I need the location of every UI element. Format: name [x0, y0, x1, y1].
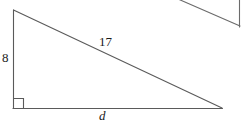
- figure-canvas: [0, 0, 247, 126]
- main-right-triangle: [13, 10, 223, 109]
- partial-triangle-top-right: [178, 0, 240, 27]
- partial-triangle-diagonal-line: [178, 0, 240, 26]
- label-base: d: [99, 109, 106, 122]
- right-angle-marker: [14, 99, 24, 109]
- geometry-figure: 8 17 d: [0, 0, 247, 126]
- label-hypotenuse: 17: [99, 35, 112, 48]
- label-vertical-leg: 8: [2, 51, 9, 64]
- triangle-hypotenuse: [14, 10, 223, 108]
